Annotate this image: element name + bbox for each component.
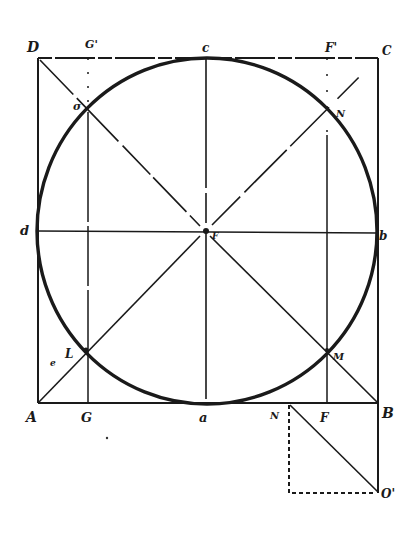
label-g-prime: G' [85, 38, 98, 51]
label-a-corner: A [24, 409, 37, 425]
label-m: M [332, 351, 345, 362]
label-b-right: b [379, 229, 387, 243]
center-point-f [203, 228, 209, 234]
label-c-top: c [202, 41, 210, 55]
label-n-upper: N [335, 108, 346, 119]
label-c-corner: C [382, 44, 392, 58]
label-n-lower: N [269, 410, 280, 421]
label-d-corner: D [26, 39, 40, 55]
point-l [84, 348, 89, 353]
ink-speck [106, 437, 108, 439]
dotted-square [289, 405, 376, 493]
diagonal-db-upper [40, 60, 200, 226]
point-m [325, 348, 329, 352]
label-l: L [64, 347, 73, 361]
label-d-left: d [20, 223, 29, 238]
label-f-center: F [211, 231, 219, 241]
geometry-figure: D G' c F' C σ N d F b e L M A G a N F B … [0, 0, 420, 533]
label-g: G [81, 410, 92, 425]
labels: D G' c F' C σ N d F b e L M A G a N F B … [20, 38, 395, 501]
label-a-bottom: a [199, 410, 207, 425]
label-f-bottom: F [319, 411, 330, 425]
label-sigma: σ [73, 100, 82, 113]
label-b-corner: B [381, 405, 394, 421]
lower-construction [289, 403, 378, 493]
label-f-prime: F' [324, 41, 337, 55]
label-o-prime: O' [381, 487, 395, 501]
segment-n-oprime [290, 405, 378, 492]
label-e: e [50, 358, 56, 368]
